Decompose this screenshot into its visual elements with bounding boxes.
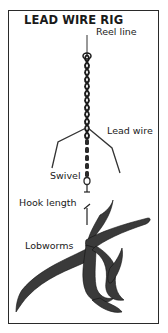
swivel	[84, 139, 90, 185]
label-lead-wire: Lead wire	[107, 125, 153, 136]
twisted-line	[85, 55, 89, 139]
rig-illustration	[0, 0, 168, 333]
lobworms	[16, 200, 150, 312]
label-hook-length: Hook length	[19, 197, 77, 208]
label-reel-line: Reel line	[96, 26, 137, 37]
label-swivel: Swivel	[50, 170, 81, 181]
label-lobworms: Lobworms	[25, 240, 74, 251]
hook-length	[84, 185, 90, 225]
